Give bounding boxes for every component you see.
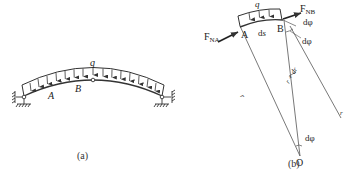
load-label-q: q <box>90 57 95 68</box>
crown-hinge <box>91 78 95 82</box>
element-load-arrows <box>249 10 269 21</box>
point-b-label: B <box>75 83 81 94</box>
angle-center-label: dφ <box>305 133 315 143</box>
caption-a: (a) <box>77 150 88 161</box>
panel-a-arch: q A B <box>12 57 175 107</box>
force-nb-label: FNB <box>300 3 316 16</box>
panel-b-element: q A ds B FNA FNB dφ dφ r r + dr r dφ O <box>204 0 343 168</box>
angle-mid-label: dφ <box>302 36 312 46</box>
angle-top-label: dφ <box>303 17 313 27</box>
caption-b: (b) <box>288 158 300 169</box>
arch-axis <box>24 80 162 96</box>
point-a-label: A <box>47 90 55 101</box>
radius-line-a <box>240 26 300 156</box>
diagram-canvas: q A B <box>0 0 346 175</box>
radius-right-label: r <box>340 109 343 117</box>
radius-r-plus-dr-label: r + dr <box>284 66 300 85</box>
force-na-arrow <box>218 32 238 42</box>
arc-length-ds-label: ds <box>258 28 267 38</box>
right-support <box>154 90 175 107</box>
force-nb-arrow <box>283 13 301 19</box>
force-na-label: FNA <box>204 31 220 44</box>
radius-r-label: r <box>238 93 246 100</box>
element-load-label-q: q <box>255 0 260 9</box>
figure: q A B <box>0 0 346 175</box>
angle-arc-mid <box>286 29 293 32</box>
element-point-a-label: A <box>241 29 249 40</box>
left-support <box>12 91 31 107</box>
element-point-b-label: B <box>277 23 284 34</box>
